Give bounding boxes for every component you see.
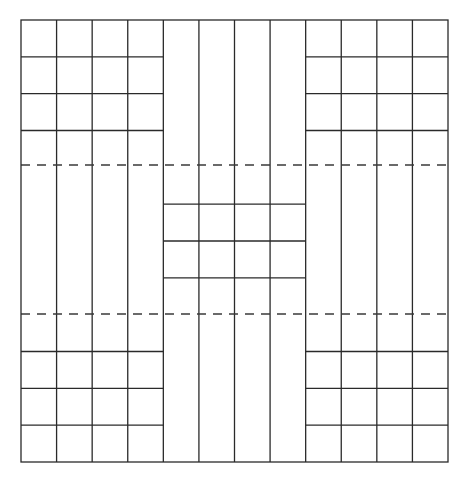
grid-lines (21, 20, 448, 462)
grid-diagram (0, 0, 464, 484)
